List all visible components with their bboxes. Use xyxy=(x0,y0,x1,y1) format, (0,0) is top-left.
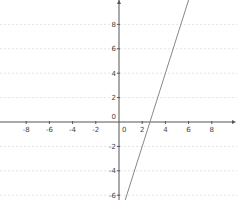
x-tick-label: -8 xyxy=(23,126,30,134)
x-tick-label: 6 xyxy=(186,126,191,134)
y-tick-label: 8 xyxy=(112,21,116,29)
y-tick-label: -4 xyxy=(109,167,117,175)
tick-labels: -8-6-4-202468-6-4-202468 xyxy=(23,21,214,200)
x-tick-label: -2 xyxy=(92,126,99,134)
y-axis-arrow-icon xyxy=(117,0,121,4)
y-tick-label: 2 xyxy=(112,94,116,102)
y-tick-label: -6 xyxy=(109,192,117,200)
y-tick-label: 6 xyxy=(112,45,117,53)
x-tick-label: 2 xyxy=(140,126,144,134)
axes xyxy=(0,0,236,200)
x-tick-label: 0 xyxy=(122,126,126,134)
plot-series xyxy=(125,0,189,200)
function-graph: -8-6-4-202468-6-4-202468 xyxy=(0,0,237,200)
x-axis-arrow-icon xyxy=(232,120,236,124)
function-line xyxy=(125,0,189,200)
y-tick-label: -2 xyxy=(109,143,116,151)
y-tick-label: 0 xyxy=(112,113,116,121)
x-tick-label: 8 xyxy=(210,126,214,134)
y-tick-label: 4 xyxy=(112,70,117,78)
x-tick-label: -4 xyxy=(69,126,77,134)
x-tick-label: -6 xyxy=(46,126,54,134)
x-tick-label: 4 xyxy=(163,126,168,134)
